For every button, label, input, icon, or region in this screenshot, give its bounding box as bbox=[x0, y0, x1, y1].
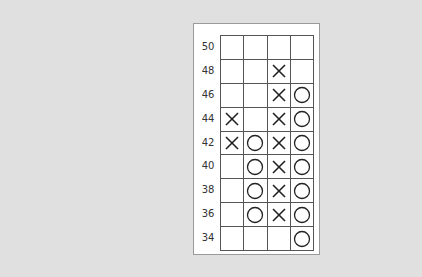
grid-cell bbox=[268, 155, 291, 179]
price-label: 34 bbox=[194, 226, 220, 250]
grid-cell bbox=[244, 155, 267, 179]
grid-cell bbox=[221, 60, 244, 84]
price-label: 46 bbox=[194, 83, 220, 107]
grid-cell bbox=[244, 60, 267, 84]
grid-cell bbox=[291, 203, 314, 227]
grid-cell bbox=[244, 132, 267, 156]
grid-cell bbox=[221, 108, 244, 132]
grid-cell bbox=[268, 132, 291, 156]
grid-cell bbox=[221, 155, 244, 179]
grid-cell bbox=[221, 203, 244, 227]
grid-cell bbox=[291, 36, 314, 60]
grid-cell bbox=[291, 179, 314, 203]
x-mark-icon bbox=[224, 111, 240, 127]
grid-cell bbox=[221, 179, 244, 203]
price-label: 36 bbox=[194, 202, 220, 226]
pnf-chart-panel: 50 48 46 44 42 40 38 36 34 bbox=[193, 23, 320, 255]
o-mark-icon bbox=[293, 230, 311, 248]
grid-cell bbox=[291, 227, 314, 251]
o-mark-icon bbox=[246, 158, 264, 176]
grid-cell bbox=[268, 179, 291, 203]
o-mark-icon bbox=[293, 182, 311, 200]
grid-cell bbox=[291, 84, 314, 108]
grid-cell bbox=[244, 179, 267, 203]
price-label: 38 bbox=[194, 178, 220, 202]
grid-cell bbox=[221, 132, 244, 156]
x-mark-icon bbox=[271, 207, 287, 223]
x-mark-icon bbox=[271, 159, 287, 175]
price-label: 44 bbox=[194, 107, 220, 131]
price-label: 50 bbox=[194, 35, 220, 59]
grid-cell bbox=[244, 36, 267, 60]
grid-cell bbox=[221, 36, 244, 60]
o-mark-icon bbox=[246, 134, 264, 152]
grid-cell bbox=[291, 155, 314, 179]
x-mark-icon bbox=[271, 135, 287, 151]
grid-cell bbox=[268, 36, 291, 60]
grid-cell bbox=[291, 108, 314, 132]
grid-cell bbox=[244, 227, 267, 251]
price-label: 40 bbox=[194, 154, 220, 178]
grid-cell bbox=[221, 84, 244, 108]
grid-cell bbox=[244, 108, 267, 132]
x-mark-icon bbox=[271, 111, 287, 127]
price-label: 48 bbox=[194, 59, 220, 83]
grid-cell bbox=[268, 84, 291, 108]
o-mark-icon bbox=[293, 158, 311, 176]
grid-cell bbox=[244, 203, 267, 227]
x-mark-icon bbox=[224, 135, 240, 151]
grid-cell bbox=[291, 132, 314, 156]
grid-cell bbox=[244, 84, 267, 108]
grid-cell bbox=[268, 108, 291, 132]
o-mark-icon bbox=[246, 182, 264, 200]
price-axis: 50 48 46 44 42 40 38 36 34 bbox=[194, 35, 220, 250]
x-mark-icon bbox=[271, 87, 287, 103]
o-mark-icon bbox=[246, 206, 264, 224]
o-mark-icon bbox=[293, 110, 311, 128]
pnf-grid bbox=[220, 35, 314, 251]
x-mark-icon bbox=[271, 63, 287, 79]
o-mark-icon bbox=[293, 206, 311, 224]
grid-cell bbox=[221, 227, 244, 251]
grid-cell bbox=[268, 203, 291, 227]
o-mark-icon bbox=[293, 86, 311, 104]
o-mark-icon bbox=[293, 134, 311, 152]
price-label: 42 bbox=[194, 131, 220, 155]
x-mark-icon bbox=[271, 183, 287, 199]
grid-cell bbox=[268, 227, 291, 251]
grid-cell bbox=[291, 60, 314, 84]
grid-cell bbox=[268, 60, 291, 84]
